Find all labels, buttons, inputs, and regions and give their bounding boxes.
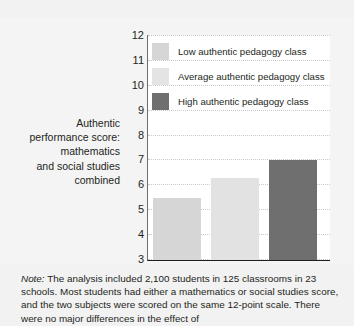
legend-item: Average authentic pedagogy class (152, 64, 330, 89)
figure-note: Note: The analysis included 2,100 studen… (21, 272, 339, 325)
y-axis-tick: 12 (120, 30, 144, 41)
bar-chart: Authentic performance score: mathematics… (0, 18, 354, 265)
gridline (148, 35, 330, 36)
legend-item: Low authentic pedagogy class (152, 39, 330, 64)
legend: Low authentic pedagogy class Average aut… (152, 39, 330, 114)
figure-note-paragraph: Note: The analysis included 2,100 studen… (21, 272, 339, 325)
note-text: The analysis included 2,100 students in … (21, 273, 338, 324)
y-axis-tick: 11 (120, 54, 144, 65)
y-axis-tick: 6 (120, 179, 144, 190)
figure-page: Authentic performance score: mathematics… (0, 0, 354, 326)
y-axis-title-line-1: Authentic (8, 116, 120, 130)
y-axis-title: Authentic performance score: mathematics… (8, 116, 120, 187)
legend-swatch-average (152, 68, 169, 85)
bar (153, 198, 201, 260)
legend-swatch-low (152, 43, 169, 60)
legend-label-low: Low authentic pedagogy class (178, 46, 307, 57)
legend-label-average: Average authentic pedagogy class (178, 71, 325, 82)
y-axis-tick: 5 (120, 204, 144, 215)
y-axis-tick: 3 (120, 254, 144, 265)
y-axis-tick: 4 (120, 229, 144, 240)
legend-label-high: High authentic pedagogy class (178, 96, 309, 107)
y-axis-tick: 8 (120, 129, 144, 140)
y-axis-tick: 7 (120, 154, 144, 165)
bar (211, 178, 259, 260)
legend-swatch-high (152, 93, 169, 110)
y-axis-title-line-5: combined (8, 173, 120, 187)
bar (269, 160, 317, 260)
plot-area: Low authentic pedagogy class Average aut… (147, 35, 330, 261)
y-axis-tick-labels: 3456789101112 (120, 18, 144, 265)
y-axis-title-line-3: mathematics (8, 144, 120, 158)
y-axis-tick: 9 (120, 104, 144, 115)
y-axis-title-line-2: performance score: (8, 130, 120, 144)
note-label: Note: (21, 273, 45, 284)
gridline (148, 135, 330, 136)
legend-item: High authentic pedagogy class (152, 89, 330, 114)
y-axis-title-line-4: and social studies (8, 159, 120, 173)
y-axis-tick: 10 (120, 79, 144, 90)
